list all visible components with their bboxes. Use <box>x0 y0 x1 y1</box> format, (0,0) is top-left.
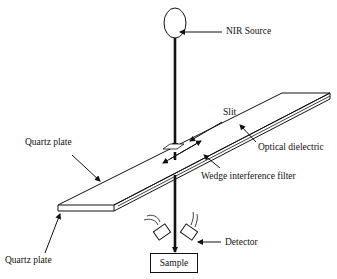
detector-left <box>144 215 171 240</box>
detector-right <box>180 212 197 240</box>
sample-box: Sample <box>150 253 198 273</box>
optical-dielectric-label: Optical dielectric <box>258 143 324 153</box>
quartz-plate-top-label: Quartz plate <box>25 138 72 148</box>
quartz-plate-front-edge <box>58 205 114 211</box>
wedge-filter-label: Wedge interference filter <box>201 172 296 182</box>
nir-source-label: NIR Source <box>226 27 271 37</box>
quartz-plate-bottom-pointer <box>45 214 60 253</box>
slit-label: Slit <box>223 108 236 118</box>
quartz-plate-bottom-label: Quartz plate <box>5 256 52 266</box>
nir-source-lamp <box>164 8 186 38</box>
quartz-plate-top-pointer <box>72 155 100 181</box>
detector-label: Detector <box>225 238 258 248</box>
